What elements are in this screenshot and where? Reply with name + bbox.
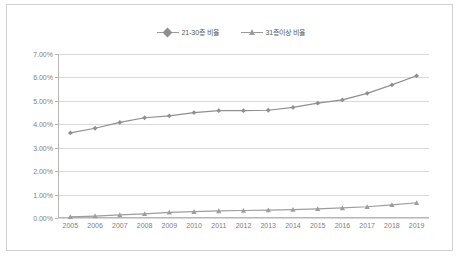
diamond-marker-icon	[167, 113, 172, 118]
y-axis-labels: 0.00%1.00%2.00%3.00%4.00%5.00%6.00%7.00%	[19, 54, 53, 218]
y-axis-tick-label: 4.00%	[33, 121, 53, 128]
x-axis-labels: 2005200620072008200920102011201220132014…	[58, 222, 429, 236]
x-axis-tick-label: 2014	[285, 222, 301, 229]
x-axis-tick-label: 2015	[310, 222, 326, 229]
series-line-1	[70, 76, 416, 133]
chart-legend: 21-30층 비율 31층이상 비율	[7, 27, 454, 37]
x-axis-tick-label: 2006	[87, 222, 103, 229]
diamond-marker-icon	[241, 108, 246, 113]
chart-frame: 21-30층 비율 31층이상 비율 0.00%1.00%2.00%3.00%4…	[6, 4, 453, 251]
diamond-marker-icon	[414, 73, 419, 78]
x-axis-tick-label: 2008	[137, 222, 153, 229]
series-plot	[58, 54, 429, 218]
y-axis-tick-label: 3.00%	[33, 144, 53, 151]
x-axis-tick-label: 2009	[162, 222, 178, 229]
y-axis-tick-label: 5.00%	[33, 97, 53, 104]
diamond-marker-icon	[291, 105, 296, 110]
x-axis-tick-label: 2012	[236, 222, 252, 229]
diamond-marker-icon	[216, 108, 221, 113]
legend-entry-series-2[interactable]: 31층이상 비율	[241, 27, 305, 37]
diamond-marker-icon	[365, 91, 370, 96]
x-axis-tick-label: 2011	[211, 222, 226, 229]
x-axis-tick-label: 2010	[186, 222, 202, 229]
chart-screenshot: 21-30층 비율 31층이상 비율 0.00%1.00%2.00%3.00%4…	[0, 0, 460, 257]
triangle-marker-icon	[241, 28, 263, 37]
diamond-marker-icon	[68, 131, 73, 136]
y-axis-tick-label: 7.00%	[33, 51, 53, 58]
diamond-marker-icon	[93, 126, 98, 131]
diamond-marker-icon	[192, 110, 197, 115]
x-axis-tick-label: 2017	[359, 222, 375, 229]
legend-entry-series-1[interactable]: 21-30층 비율	[157, 27, 219, 37]
gridline	[58, 218, 429, 219]
x-axis-tick-label: 2007	[112, 222, 128, 229]
x-axis-tick-label: 2018	[384, 222, 400, 229]
legend-label-series-1: 21-30층 비율	[182, 27, 219, 37]
diamond-marker-icon	[315, 101, 320, 106]
y-axis-tick-label: 1.00%	[33, 191, 53, 198]
x-axis-tick-label: 2005	[63, 222, 79, 229]
y-axis-tick-label: 6.00%	[33, 74, 53, 81]
plot-area	[58, 54, 429, 218]
y-axis-tick-label: 2.00%	[33, 168, 53, 175]
diamond-marker-icon	[390, 83, 395, 88]
diamond-marker-icon	[142, 115, 147, 120]
diamond-marker-icon	[340, 98, 345, 103]
x-axis-tick-label: 2013	[260, 222, 276, 229]
x-axis-tick-label: 2016	[335, 222, 351, 229]
diamond-marker-icon	[157, 28, 179, 37]
x-axis-tick-label: 2019	[409, 222, 425, 229]
diamond-marker-icon	[266, 108, 271, 113]
diamond-marker-icon	[117, 120, 122, 125]
y-axis-tick-label: 0.00%	[33, 215, 53, 222]
legend-label-series-2: 31층이상 비율	[266, 27, 305, 37]
